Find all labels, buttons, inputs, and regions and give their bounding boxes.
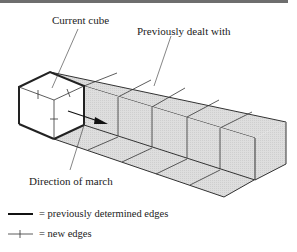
label-previously-dealt-with: Previously dealt with — [137, 25, 231, 37]
legend-previously-determined: = previously determined edges — [39, 208, 168, 220]
label-direction-of-march: Direction of march — [29, 175, 113, 187]
legend-tick-line-icon — [8, 230, 33, 238]
legend-new-edges: = new edges — [39, 228, 92, 240]
leader-previously-dealt — [154, 36, 171, 86]
label-current-cube: Current cube — [52, 14, 109, 26]
